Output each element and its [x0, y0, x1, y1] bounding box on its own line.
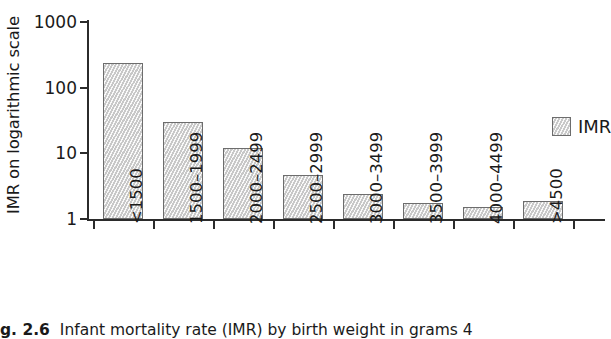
x-tick-mark: [93, 220, 95, 229]
caption-number: g. 2.6: [0, 322, 50, 339]
y-tick-mark: [80, 21, 88, 23]
x-tick-mark: [573, 220, 575, 229]
x-tick-mark: [153, 220, 155, 229]
y-tick-mark: [80, 218, 88, 220]
x-category-label-text: 3500–3999: [429, 132, 446, 224]
y-axis-title: IMR on logarithmic scale: [0, 0, 26, 230]
x-tick-mark: [513, 220, 515, 229]
y-axis-line: [87, 20, 89, 220]
y-tick-label: 100: [45, 79, 77, 96]
x-category-label-text: 3000–3499: [369, 132, 386, 224]
x-category-label-text: 1500–1999: [189, 132, 206, 224]
legend-swatch-imr: [552, 117, 571, 136]
y-tick-label: 10: [55, 145, 77, 162]
y-tick-mark: [80, 152, 88, 154]
y-tick-label: 1000: [34, 13, 77, 30]
caption-text: Infant mortality rate (IMR) by birth wei…: [60, 322, 473, 339]
x-axis-line: [87, 219, 605, 221]
x-tick-mark: [273, 220, 275, 229]
legend-label-imr: IMR: [578, 118, 611, 136]
x-tick-mark: [393, 220, 395, 229]
y-tick-label: 1: [66, 211, 77, 228]
x-category-label-text: 2500–2999: [309, 132, 326, 224]
legend: IMR: [552, 117, 611, 136]
y-tick-mark: [80, 87, 88, 89]
x-tick-mark: [453, 220, 455, 229]
x-category-label-text: 2000–2499: [249, 132, 266, 224]
x-tick-mark: [213, 220, 215, 229]
x-category-label-text: >4500: [549, 168, 566, 224]
x-category-label-text: <1500: [129, 168, 146, 224]
plot-area: 1000100101: [87, 20, 605, 220]
x-tick-mark: [333, 220, 335, 229]
x-category-label-text: 4000–4499: [489, 132, 506, 224]
figure-caption: g. 2.6Infant mortality rate (IMR) by bir…: [0, 322, 605, 339]
